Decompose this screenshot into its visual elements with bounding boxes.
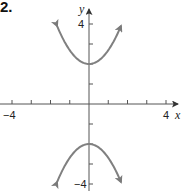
x-min-label: −4 <box>3 109 16 121</box>
y-min-label: −4 <box>74 178 87 190</box>
x-max-label: 4 <box>163 109 169 121</box>
graph: −4 4 x y 4 −4 <box>0 0 183 191</box>
y-max-label: 4 <box>78 18 84 30</box>
y-axis-name: y <box>78 2 85 16</box>
x-axis-name: x <box>174 108 181 122</box>
